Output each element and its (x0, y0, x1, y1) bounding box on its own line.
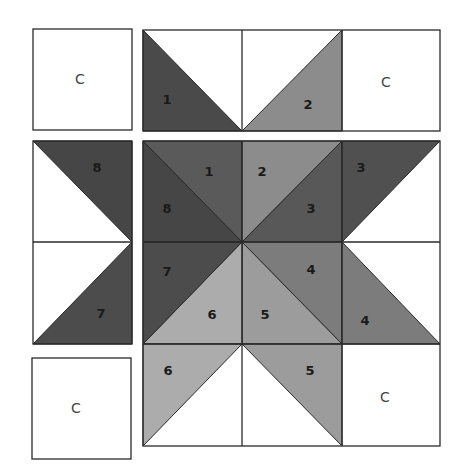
piece-label: 6 (207, 307, 216, 322)
piece-label: 5 (260, 307, 269, 322)
main-block: 1 2 8 3 7 4 6 5 3 4 6 5 C (143, 141, 440, 446)
piece-label: 1 (162, 92, 171, 107)
piece-label: 7 (162, 264, 171, 279)
piece-label: 4 (360, 313, 369, 328)
corner-square-top-left: C (33, 29, 132, 130)
corner-label: C (71, 400, 81, 416)
corner-label: C (75, 71, 85, 87)
piece-label: 5 (305, 363, 314, 378)
left-strip: 8 7 (33, 141, 132, 344)
piece-label: 8 (92, 160, 101, 175)
piece-label: 6 (163, 363, 172, 378)
corner-square-bottom-right: C (380, 389, 390, 405)
piece-label: 8 (162, 201, 171, 216)
piece-label: 3 (306, 201, 315, 216)
piece-label: 4 (306, 262, 315, 277)
corner-label: C (381, 74, 391, 90)
piece-label: 2 (257, 164, 266, 179)
quilt-diagram: C 1 2 C 8 7 (0, 0, 462, 474)
piece-label: 7 (96, 306, 105, 321)
top-strip: 1 2 (143, 30, 440, 131)
corner-square-bottom-left: C (32, 358, 131, 459)
piece-label: 2 (303, 97, 312, 112)
corner-square-top-right: C (381, 74, 391, 90)
piece-label: 1 (204, 164, 213, 179)
piece-label: 3 (356, 160, 365, 175)
